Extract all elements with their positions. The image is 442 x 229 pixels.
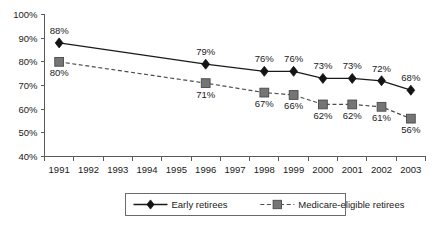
x-axis-tick-label: 1998	[254, 164, 275, 175]
data-point-label: 73%	[313, 60, 333, 71]
data-point-marker	[55, 38, 63, 48]
x-axis-tick-label: 2002	[371, 164, 392, 175]
data-point-marker	[289, 91, 298, 100]
x-axis-tick-label: 1993	[107, 164, 128, 175]
data-point-marker	[202, 59, 210, 69]
x-axis-tick-label: 1995	[166, 164, 187, 175]
data-point-marker	[406, 114, 415, 123]
y-axis-tick-label: 100%	[13, 9, 38, 20]
data-point-label: 76%	[255, 53, 275, 64]
data-point-marker	[348, 73, 356, 83]
data-point-marker	[377, 102, 386, 111]
data-point-marker	[201, 79, 210, 88]
y-axis-tick-label: 50%	[18, 127, 38, 138]
data-point-marker	[348, 100, 357, 109]
data-point-marker	[55, 57, 64, 66]
data-point-marker	[260, 66, 268, 76]
data-point-label: 73%	[343, 60, 363, 71]
x-axis-tick-label: 1999	[283, 164, 304, 175]
y-axis-tick-label: 60%	[18, 104, 38, 115]
x-axis-tick-label: 1992	[78, 164, 99, 175]
y-axis-tick-label: 90%	[18, 33, 38, 44]
x-axis-tick-label: 2001	[342, 164, 363, 175]
data-point-label: 80%	[50, 67, 70, 78]
x-axis-tick-label: 1991	[49, 164, 70, 175]
legend-square-marker	[273, 200, 281, 208]
x-axis-tick-label: 1996	[195, 164, 216, 175]
data-point-label: 68%	[401, 72, 421, 83]
data-point-marker	[319, 73, 327, 83]
data-point-label: 66%	[284, 100, 304, 111]
data-point-marker	[290, 66, 298, 76]
x-axis-tick-label: 1994	[137, 164, 158, 175]
data-point-label: 62%	[313, 110, 333, 121]
data-point-label: 72%	[372, 63, 392, 74]
data-point-label: 71%	[196, 89, 216, 100]
x-axis-tick-label: 2000	[312, 164, 333, 175]
x-axis-tick-label: 2003	[400, 164, 421, 175]
line-chart: 40%50%60%70%80%90%100% 19911992199319941…	[0, 0, 442, 229]
x-axis-tick-label: 1997	[224, 164, 245, 175]
data-point-label: 76%	[284, 53, 304, 64]
data-point-label: 88%	[50, 25, 70, 36]
data-point-marker	[260, 88, 269, 97]
data-point-label: 79%	[196, 46, 216, 57]
y-axis-tick-label: 70%	[18, 80, 38, 91]
legend-entry-label: Early retirees	[172, 199, 228, 210]
data-point-label: 67%	[255, 98, 275, 109]
chart-legend: Early retireesMedicare-eligible retirees	[126, 194, 405, 216]
y-axis-tick-label: 40%	[18, 151, 38, 162]
data-point-label: 62%	[343, 110, 363, 121]
data-point-label: 61%	[372, 112, 392, 123]
data-point-marker	[407, 85, 415, 95]
x-axis: 1991199219931994199519961997199819992000…	[45, 157, 426, 175]
data-point-marker	[378, 76, 386, 86]
y-axis: 40%50%60%70%80%90%100%	[13, 9, 44, 162]
data-point-label: 56%	[401, 124, 421, 135]
chart-container: 40%50%60%70%80%90%100% 19911992199319941…	[0, 0, 442, 229]
legend-entry-label: Medicare-eligible retirees	[298, 199, 404, 210]
y-axis-tick-label: 80%	[18, 56, 38, 67]
data-point-marker	[319, 100, 328, 109]
